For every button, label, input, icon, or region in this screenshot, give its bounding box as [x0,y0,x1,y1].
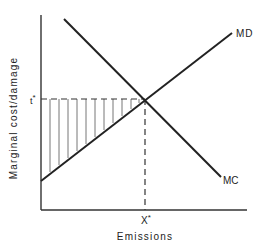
emissions-diagram: MD MC t* X* Emissions Marginal cost/dama… [0,0,265,250]
md-label: MD [236,28,254,39]
hatched-region [50,99,139,172]
y-axis-title: Marginal cost/damage [8,57,19,179]
mc-curve [64,19,221,177]
x-star-label: X* [141,213,151,226]
mc-label: MC [223,175,239,186]
x-axis-title: Emissions [117,231,173,242]
t-star-label: t* [30,93,36,106]
